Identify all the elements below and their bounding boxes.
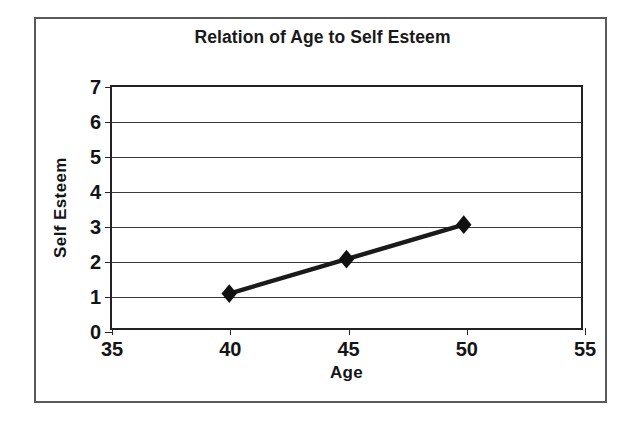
y-tick-label: 4 xyxy=(90,182,101,202)
data-series-line xyxy=(112,87,581,328)
y-tick-label: 3 xyxy=(90,217,101,237)
y-tick-mark xyxy=(105,262,112,263)
x-tick-mark xyxy=(349,328,350,335)
x-axis-title: Age xyxy=(110,363,583,383)
x-tick-mark xyxy=(585,328,586,335)
data-point-marker xyxy=(339,250,354,269)
x-tick-mark xyxy=(230,328,231,335)
x-tick-label: 50 xyxy=(456,339,478,359)
plot-area: 01234567 3540455055 xyxy=(110,85,583,330)
x-tick-label: 55 xyxy=(574,339,596,359)
chart-title: Relation of Age to Self Esteem xyxy=(36,27,609,48)
y-tick-mark xyxy=(105,192,112,193)
x-tick-label: 45 xyxy=(337,339,359,359)
y-tick-mark xyxy=(105,297,112,298)
y-tick-mark xyxy=(105,122,112,123)
data-point-marker xyxy=(222,284,237,303)
series-markers xyxy=(222,215,472,303)
chart-frame: Relation of Age to Self Esteem Self Este… xyxy=(34,17,607,403)
y-tick-label: 1 xyxy=(90,287,101,307)
y-tick-label: 5 xyxy=(90,147,101,167)
x-tick-mark xyxy=(467,328,468,335)
y-tick-label: 2 xyxy=(90,252,101,272)
data-point-marker xyxy=(456,215,471,234)
y-tick-label: 0 xyxy=(90,322,101,342)
x-tick-label: 40 xyxy=(219,339,241,359)
y-tick-label: 7 xyxy=(90,77,101,97)
y-axis-title: Self Esteem xyxy=(48,85,74,330)
y-tick-label: 6 xyxy=(90,112,101,132)
x-tick-mark xyxy=(112,328,113,335)
y-tick-mark xyxy=(105,227,112,228)
y-tick-mark xyxy=(105,332,112,333)
y-tick-mark xyxy=(105,87,112,88)
y-tick-mark xyxy=(105,157,112,158)
x-tick-label: 35 xyxy=(101,339,123,359)
